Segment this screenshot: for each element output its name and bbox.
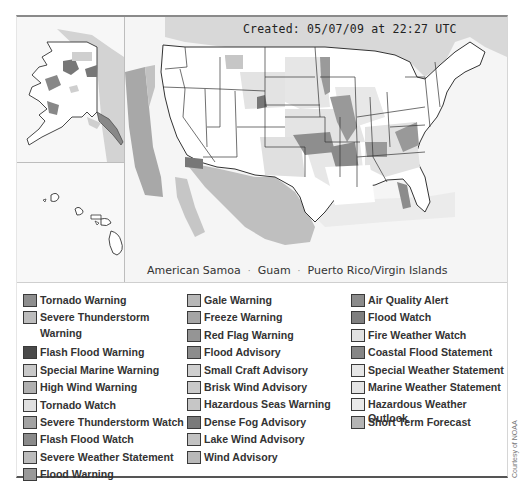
hazard-legend: Tornado Warning Severe Thunderstorm Warn… [17, 289, 507, 478]
legend-label: Air Quality Alert [368, 293, 448, 307]
legend-label: Flood Advisory [204, 345, 281, 359]
legend-item-severe-weather-statement[interactable]: Severe Weather Statement [23, 450, 184, 467]
swatch [23, 416, 37, 429]
conus-map[interactable]: Created: 05/07/09 at 22:27 UTC [125, 17, 507, 282]
swatch [23, 468, 37, 481]
swatch [187, 451, 201, 464]
legend-label: Tornado Watch [40, 398, 116, 412]
legend-item-tornado-warning[interactable]: Tornado Warning [23, 293, 184, 310]
hawaii-inset[interactable] [17, 163, 125, 282]
image-credit: Courtesy of NOAA [511, 420, 518, 478]
legend-item-brisk-wind-advisory[interactable]: Brisk Wind Advisory [187, 380, 331, 397]
legend-column-1: Tornado Warning Severe Thunderstorm Warn… [23, 293, 184, 485]
swatch [187, 311, 201, 324]
territory-link-guam[interactable]: Guam [258, 264, 291, 277]
legend-item-air-quality-alert[interactable]: Air Quality Alert [351, 293, 507, 310]
legend-item-wind-advisory[interactable]: Wind Advisory [187, 450, 331, 467]
map-area: Created: 05/07/09 at 22:27 UTC American … [17, 17, 507, 283]
swatch [187, 346, 201, 359]
swatch [351, 329, 365, 342]
legend-label: Small Craft Advisory [204, 363, 308, 377]
swatch [23, 433, 37, 446]
legend-item-lake-wind-advisory[interactable]: Lake Wind Advisory [187, 432, 331, 449]
legend-label: Red Flag Warning [204, 328, 294, 342]
swatch [351, 294, 365, 307]
territory-separator: · [248, 266, 251, 276]
swatch [23, 399, 37, 412]
hawaii-map [17, 163, 124, 282]
legend-label: Dense Fog Advisory [204, 415, 306, 429]
legend-item-hazardous-seas-warning[interactable]: Hazardous Seas Warning [187, 397, 331, 414]
swatch [23, 294, 37, 307]
legend-item-gale-warning[interactable]: Gale Warning [187, 293, 331, 310]
legend-item-coastal-flood-statement[interactable]: Coastal Flood Statement [351, 345, 507, 362]
hazards-map-panel: Created: 05/07/09 at 22:27 UTC American … [16, 15, 508, 478]
legend-item-small-craft-advisory[interactable]: Small Craft Advisory [187, 363, 331, 380]
legend-item-high-wind-warning[interactable]: High Wind Warning [23, 380, 184, 397]
swatch [187, 294, 201, 307]
legend-item-special-weather-statement[interactable]: Special Weather Statement [351, 363, 507, 380]
legend-column-2: Gale Warning Freeze Warning Red Flag War… [187, 293, 331, 467]
swatch [351, 416, 365, 429]
created-timestamp: Created: 05/07/09 at 22:27 UTC [243, 22, 457, 36]
legend-label: Gale Warning [204, 293, 272, 307]
territories-links: American Samoa·Guam·Puerto Rico/Virgin I… [147, 264, 448, 277]
legend-label: Severe Thunderstorm Watch [40, 415, 184, 429]
legend-item-red-flag-warning[interactable]: Red Flag Warning [187, 328, 331, 345]
swatch [23, 381, 37, 394]
legend-item-dense-fog-advisory[interactable]: Dense Fog Advisory [187, 415, 331, 432]
legend-item-tornado-watch[interactable]: Tornado Watch [23, 398, 184, 415]
conus-map-graphic [125, 17, 507, 282]
swatch [187, 364, 201, 377]
alaska-map [17, 17, 124, 162]
legend-item-flood-watch[interactable]: Flood Watch [351, 310, 507, 327]
legend-label: Hazardous Seas Warning [204, 397, 331, 411]
legend-item-flood-warning[interactable]: Flood Warning [23, 467, 184, 484]
legend-label: Flash Flood Warning [40, 345, 144, 359]
territory-link-puerto-rico[interactable]: Puerto Rico/Virgin Islands [307, 264, 447, 277]
legend-label: Brisk Wind Advisory [204, 380, 307, 394]
swatch [351, 346, 365, 359]
legend-column-3: Air Quality Alert Flood Watch Fire Weath… [351, 293, 507, 432]
swatch [351, 311, 365, 324]
legend-label: Wind Advisory [204, 450, 278, 464]
legend-label: Fire Weather Watch [368, 328, 466, 342]
legend-item-severe-thunderstorm-warning[interactable]: Severe Thunderstorm Warning [23, 310, 184, 345]
legend-label: Coastal Flood Statement [368, 345, 492, 359]
legend-label: Marine Weather Statement [368, 380, 501, 394]
legend-label: Flood Watch [368, 310, 431, 324]
swatch [187, 433, 201, 446]
swatch [187, 416, 201, 429]
swatch [351, 364, 365, 377]
legend-item-fire-weather-watch[interactable]: Fire Weather Watch [351, 328, 507, 345]
legend-label: Flash Flood Watch [40, 432, 134, 446]
swatch [187, 398, 201, 411]
legend-item-flood-advisory[interactable]: Flood Advisory [187, 345, 331, 362]
legend-label: Tornado Warning [40, 293, 127, 307]
legend-item-marine-weather-statement[interactable]: Marine Weather Statement [351, 380, 507, 397]
swatch [351, 398, 365, 411]
swatch [23, 364, 37, 377]
legend-item-freeze-warning[interactable]: Freeze Warning [187, 310, 331, 327]
swatch [351, 381, 365, 394]
swatch [23, 451, 37, 464]
legend-item-severe-thunderstorm-watch[interactable]: Severe Thunderstorm Watch [23, 415, 184, 432]
legend-item-special-marine-warning[interactable]: Special Marine Warning [23, 363, 184, 380]
alaska-inset[interactable] [17, 17, 125, 163]
legend-label: Special Weather Statement [368, 363, 504, 377]
legend-label: Lake Wind Advisory [204, 432, 305, 446]
legend-label: High Wind Warning [40, 380, 137, 394]
territory-separator: · [298, 266, 301, 276]
swatch [23, 311, 37, 324]
legend-label: Flood Warning [40, 467, 114, 481]
legend-label: Severe Thunderstorm Warning [40, 309, 170, 341]
swatch [187, 329, 201, 342]
legend-item-hazardous-weather-outlook[interactable]: Hazardous Weather Outlook [351, 397, 507, 414]
territory-link-american-samoa[interactable]: American Samoa [147, 264, 241, 277]
swatch [187, 381, 201, 394]
legend-label: Freeze Warning [204, 310, 283, 324]
swatch [23, 346, 37, 359]
legend-item-flash-flood-watch[interactable]: Flash Flood Watch [23, 432, 184, 449]
legend-label: Short Term Forecast [368, 415, 471, 429]
legend-item-flash-flood-warning[interactable]: Flash Flood Warning [23, 345, 184, 362]
